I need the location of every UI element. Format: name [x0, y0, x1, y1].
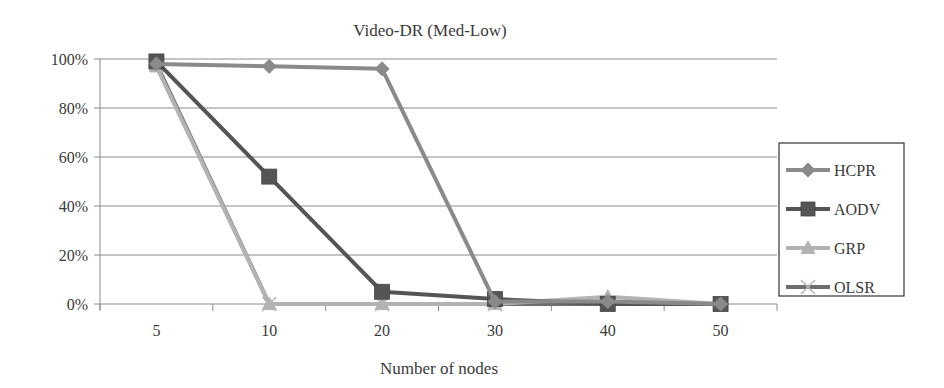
series-line [156, 64, 720, 304]
square-marker [375, 284, 390, 299]
legend-label: HCPR [834, 162, 876, 179]
y-tick-label: 20% [59, 247, 88, 264]
line-chart: Video-DR (Med-Low) 0%20%40%60%80%100% 51… [0, 0, 944, 388]
x-axis-label: Number of nodes [380, 359, 498, 378]
x-tick-label: 40 [600, 322, 616, 339]
x-tick-label: 20 [374, 322, 390, 339]
x-axis: 51020304050 [100, 304, 777, 339]
x-tick-label: 5 [152, 322, 160, 339]
x-tick-label: 50 [713, 322, 729, 339]
legend: HCPRAODVGRPOLSR [779, 143, 904, 296]
y-axis: 0%20%40%60%80%100% [51, 51, 100, 313]
y-tick-label: 100% [51, 51, 88, 68]
x-tick-label: 30 [487, 322, 503, 339]
chart-title: Video-DR (Med-Low) [353, 21, 506, 40]
series-layer [149, 54, 728, 312]
legend-label: OLSR [834, 279, 875, 296]
diamond-marker [375, 62, 389, 76]
series-hcpr [149, 57, 727, 311]
square-marker [262, 169, 277, 184]
x-tick-label: 10 [261, 322, 277, 339]
y-tick-label: 60% [59, 149, 88, 166]
y-tick-label: 40% [59, 198, 88, 215]
legend-label: AODV [834, 201, 881, 218]
legend-label: GRP [834, 240, 865, 257]
y-tick-label: 80% [59, 100, 88, 117]
diamond-marker [262, 59, 276, 73]
square-marker [801, 202, 815, 216]
y-tick-label: 0% [67, 296, 88, 313]
